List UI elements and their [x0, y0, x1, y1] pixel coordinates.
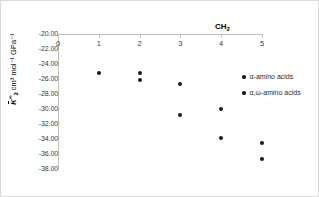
x-axis-tick-label: 5 — [252, 39, 272, 48]
y-axis-tick-label: -28.00 — [39, 90, 58, 98]
x-axis-line — [58, 34, 262, 35]
x-axis-tick-label: 3 — [170, 39, 190, 48]
legend-item[interactable]: α-amino acids — [242, 71, 301, 83]
chart-figure: 012345 -20.00-22.00-24.00-26.00-28.00-30… — [0, 0, 319, 197]
x-axis-tick-label: 2 — [130, 39, 150, 48]
y-axis-tick-label: -32.00 — [39, 120, 58, 128]
x-axis-tick-label: 1 — [89, 39, 109, 48]
x-axis-title-text: CH — [215, 22, 227, 31]
x-axis-title: CH2 — [215, 22, 230, 31]
x-axis-tick-label: 4 — [211, 39, 231, 48]
y-axis-tick-label: -34.00 — [39, 135, 58, 143]
legend-item[interactable]: α,ω-amino acids — [242, 87, 301, 99]
data-point — [260, 157, 264, 161]
x-axis-title-subscript: 2 — [227, 26, 230, 32]
data-point — [178, 113, 182, 117]
y-axis-tick-label: -30.00 — [39, 105, 58, 113]
legend-item-label: α,ω-amino acids — [250, 89, 301, 97]
data-point — [178, 82, 182, 86]
chart-legend: α-amino acidsα,ω-amino acids — [242, 71, 301, 103]
y-axis-tick-label: -36.00 — [39, 150, 58, 158]
data-point — [138, 71, 142, 75]
y-axis-tick-label: -26.00 — [39, 75, 58, 83]
data-point — [219, 136, 223, 140]
y-axis-tick-label: -24.00 — [39, 60, 58, 68]
data-point — [138, 78, 142, 82]
x-axis-tick — [262, 34, 263, 38]
y-axis-tick-label: -38.00 — [39, 165, 58, 173]
x-axis-tick — [180, 34, 181, 38]
y-axis-tick-label: -20.00 — [39, 30, 58, 38]
data-point — [260, 141, 264, 145]
data-point — [219, 107, 223, 111]
y-axis-title-symbol: K — [9, 99, 18, 104]
y-axis-title-unit: cm³ mol⁻¹ GPa⁻¹ — [9, 33, 18, 92]
data-point — [97, 71, 101, 75]
y-axis-title-subscript: 2 — [13, 92, 19, 95]
y-axis-title: K∞2 cm³ mol⁻¹ GPa⁻¹ — [7, 19, 19, 119]
legend-marker-icon — [242, 91, 246, 95]
x-axis-tick — [140, 34, 141, 38]
x-axis-tick — [99, 34, 100, 38]
y-axis-line — [58, 34, 59, 170]
x-axis-tick — [58, 34, 59, 38]
y-axis-tick-label: -22.00 — [39, 45, 58, 53]
x-axis-tick — [221, 34, 222, 38]
legend-marker-icon — [242, 75, 246, 79]
legend-item-label: α-amino acids — [250, 73, 294, 81]
